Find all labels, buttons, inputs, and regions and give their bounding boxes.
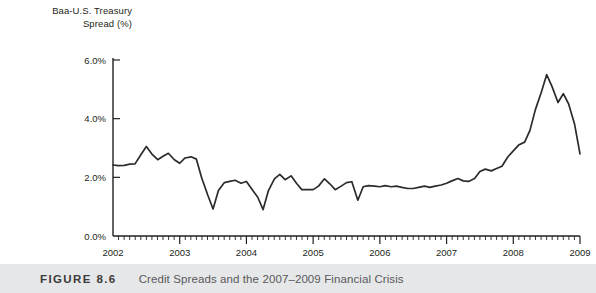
y-tick-label: 0.0% bbox=[84, 231, 106, 242]
x-axis: 20022003200420052006200720082009 bbox=[102, 236, 590, 258]
data-line-0 bbox=[113, 75, 580, 210]
x-tick-label: 2004 bbox=[236, 247, 257, 258]
x-tick-label: 2008 bbox=[503, 247, 524, 258]
figure-caption-band: FIGURE 8.6 Credit Spreads and the 2007–2… bbox=[0, 264, 596, 293]
figure-caption-text: Credit Spreads and the 2007–2009 Financi… bbox=[139, 273, 404, 285]
figure-number-label: FIGURE 8.6 bbox=[40, 273, 117, 285]
y-tick-label: 4.0% bbox=[84, 113, 106, 124]
figure-caption: FIGURE 8.6 Credit Spreads and the 2007–2… bbox=[0, 273, 404, 285]
x-tick-label: 2003 bbox=[169, 247, 190, 258]
credit-spread-line-chart: 0.0%2.0%4.0%6.0% 20022003200420052006200… bbox=[0, 0, 596, 264]
x-tick-label: 2009 bbox=[569, 247, 590, 258]
y-tick-label: 6.0% bbox=[84, 55, 106, 66]
x-tick-label: 2002 bbox=[102, 247, 123, 258]
y-axis: 0.0%2.0%4.0%6.0% bbox=[84, 55, 120, 242]
x-tick-label: 2006 bbox=[369, 247, 390, 258]
x-tick-label: 2007 bbox=[436, 247, 457, 258]
figure-container: Baa-U.S. Treasury Spread (%) 0.0%2.0%4.0… bbox=[0, 0, 596, 293]
x-tick-label: 2005 bbox=[303, 247, 324, 258]
y-tick-label: 2.0% bbox=[84, 172, 106, 183]
data-series-group bbox=[113, 75, 580, 210]
